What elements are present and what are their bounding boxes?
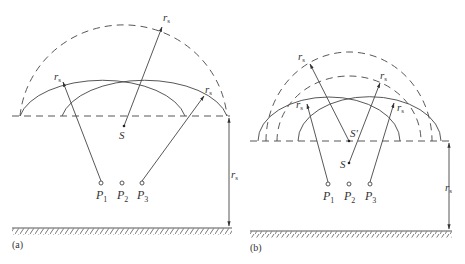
panel-a-source-label: S	[119, 129, 125, 141]
panel-a-point-p3	[140, 181, 144, 185]
panel-b-arrow-s-prime	[310, 64, 349, 141]
panel-b-p2-label: P2	[343, 189, 355, 205]
panel-b-point-p2	[347, 182, 351, 186]
panel-b-virtual-source-label: S′	[350, 127, 359, 139]
panel-a-solid-arc-p1	[20, 80, 185, 116]
panel-a-ground-hatch	[12, 229, 232, 235]
panel-a-point-p1	[99, 181, 103, 185]
panel-a-arrow-s	[124, 27, 162, 126]
panel-b-arrow-s	[349, 83, 380, 163]
panel-a-rs-label-right: rs	[205, 83, 212, 97]
panel-b-arrow-p3	[370, 103, 394, 182]
panel-b-label: (b)	[250, 242, 262, 254]
panel-b-ground-hatch	[250, 232, 452, 238]
panel-b-p3-label: P3	[364, 189, 376, 205]
panel-a-point-p2	[120, 181, 124, 185]
figure-canvas: rs rs rs rs S P1 P2 P3 (a) rs rs rs rs r…	[0, 0, 465, 264]
panel-b-point-p1	[326, 182, 330, 186]
panel-b-solid-arc-p3	[298, 97, 441, 141]
panel-a-p2-label: P2	[116, 188, 128, 204]
panel-a-rs-label-top: rs	[163, 11, 170, 25]
panel-a-dashed-arc	[20, 25, 227, 116]
panel-a-label: (a)	[12, 239, 23, 251]
panel-b-rs-label-mid: rs	[380, 69, 387, 83]
panel-a-p3-label: P3	[136, 188, 148, 204]
panel-b-arrow-p1	[307, 104, 328, 182]
panel-a-rs-label-left: rs	[54, 70, 61, 84]
panel-b-rs-label-right: rs	[397, 101, 404, 115]
panel-a-arrow-p1	[63, 82, 101, 181]
panel-a-p1-label: P1	[95, 188, 107, 204]
panel-b-virtual-source-dot	[348, 140, 351, 143]
panel-a-source-dot	[123, 125, 126, 128]
panel-b-source-dot	[348, 162, 351, 165]
panel-b-p1-label: P1	[322, 189, 334, 205]
panel-b	[250, 52, 452, 238]
panel-b-rs-label-dimension: rs	[445, 181, 452, 195]
panel-b-point-p3	[368, 182, 372, 186]
panel-b-rs-label-top: rs	[298, 50, 305, 64]
panel-a-rs-label-dimension: rs	[231, 168, 238, 182]
panel-b-solid-arc-p1	[258, 97, 400, 141]
panel-a-arrow-p3	[142, 96, 204, 181]
panel-b-source-label: S	[340, 158, 346, 170]
panel-b-dashed-arc-outer	[266, 52, 432, 141]
